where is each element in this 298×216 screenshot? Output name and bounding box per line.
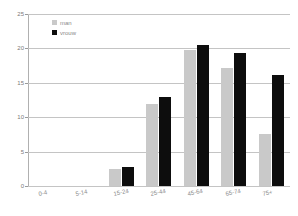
legend-label-vrouw: vrouw — [60, 30, 76, 36]
legend-swatch-icon-man — [52, 20, 57, 25]
bar-vrouw-25-44 — [159, 97, 171, 186]
gridline — [28, 186, 290, 187]
bar-vrouw-65-74 — [234, 53, 246, 186]
bar-vrouw-45-64 — [197, 45, 209, 186]
bar-man-15-24 — [109, 169, 121, 186]
bar-group — [140, 14, 177, 186]
bar-group — [178, 14, 215, 186]
y-axis-tick-label: 0 — [0, 183, 24, 189]
y-axis-tick-label: 5 — [0, 149, 24, 155]
bar-man-45-64 — [184, 50, 196, 186]
legend-swatch-icon-vrouw — [52, 30, 57, 35]
legend-item-vrouw: vrouw — [52, 28, 76, 37]
legend-label-man: man — [60, 20, 72, 26]
bar-group — [65, 14, 102, 186]
bar-vrouw-15-24 — [122, 167, 134, 186]
bar-man-75+ — [259, 134, 271, 186]
legend: man vrouw — [52, 18, 76, 38]
plot-area — [28, 14, 290, 186]
y-axis-tick-label: 20 — [0, 45, 24, 51]
bar-group — [103, 14, 140, 186]
legend-item-man: man — [52, 18, 76, 27]
bar-man-25-44 — [146, 104, 158, 186]
bars-layer — [28, 14, 290, 186]
bar-man-65-74 — [221, 68, 233, 186]
bar-group — [28, 14, 65, 186]
bar-chart: 0510152025 0-45-1415-2425-4445-6465-7475… — [0, 0, 298, 216]
y-axis-tick-label: 25 — [0, 11, 24, 17]
y-axis-tick-label: 15 — [0, 80, 24, 86]
bar-vrouw-75+ — [272, 75, 284, 186]
bar-group — [215, 14, 252, 186]
x-axis-tick-label: 65-74 — [225, 188, 241, 197]
bar-group — [253, 14, 290, 186]
y-axis-tick-label: 10 — [0, 114, 24, 120]
x-axis-tick-label: 15-24 — [113, 188, 129, 197]
x-axis-tick-label: 0-4 — [38, 189, 48, 197]
x-axis-tick-label: 45-64 — [187, 188, 203, 197]
x-axis-tick-label: 75+ — [262, 189, 273, 197]
x-axis-tick-label: 25-44 — [150, 188, 166, 197]
x-axis-tick-label: 5-14 — [75, 189, 88, 197]
